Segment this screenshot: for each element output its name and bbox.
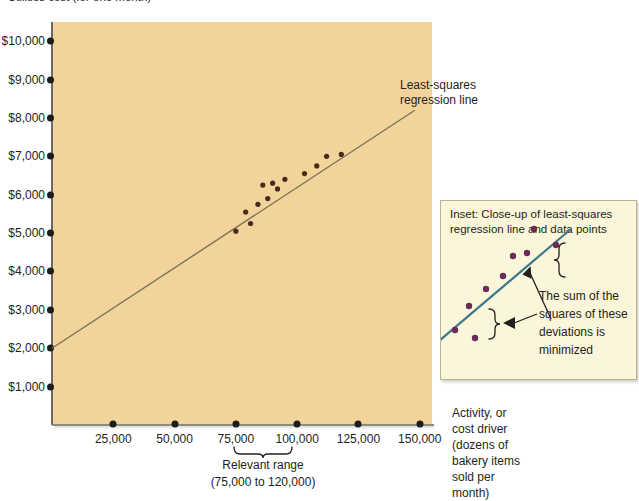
- inset-data-point: [483, 286, 489, 292]
- y-axis-tick-dot: [47, 153, 54, 160]
- inset-data-point: [500, 273, 506, 279]
- inset-note-line-2: deviations is: [539, 323, 634, 341]
- x-axis-tick-dot: [416, 421, 423, 428]
- inset-data-point: [466, 303, 472, 309]
- y-axis-tick-dot: [47, 230, 54, 237]
- y-axis-tick-label: $4,000: [8, 264, 45, 278]
- inset-data-point: [553, 242, 559, 248]
- inset-data-point: [452, 327, 458, 333]
- x-axis-tick-dot: [232, 421, 239, 428]
- inset-brace-lower: [489, 309, 500, 339]
- y-axis-tick-label: $5,000: [8, 226, 45, 240]
- y-axis-tick-label: $8,000: [8, 111, 45, 125]
- relevant-range-line1: Relevant range: [178, 457, 348, 474]
- x-axis-title-line-4: sold per: [452, 469, 547, 485]
- x-axis-tick-dot: [355, 421, 362, 428]
- inset-note-line-0: The sum of the: [539, 287, 634, 305]
- plot-area: [52, 22, 432, 425]
- x-axis-tick-dot: [110, 421, 117, 428]
- y-axis-tick-label: $9,000: [8, 73, 45, 87]
- y-axis-tick-dot: [47, 76, 54, 83]
- y-axis-tick-dot: [47, 268, 54, 275]
- x-axis-tick-dot: [171, 421, 178, 428]
- x-axis-tick-label: 150,000: [398, 432, 441, 446]
- x-axis-tick-label: 75,000: [218, 432, 255, 446]
- inset-note-line-1: squares of these: [539, 305, 634, 323]
- x-axis-tick-label: 100,000: [275, 432, 318, 446]
- x-axis-tick-label: 125,000: [337, 432, 380, 446]
- regression-line-label-line2: regression line: [400, 93, 478, 108]
- y-axis-tick-label: $10,000: [2, 34, 45, 48]
- y-axis-tick-dot: [47, 191, 54, 198]
- regression-line-label-line1: Least-squares: [400, 78, 478, 93]
- inset-note: The sum of the squares of these deviatio…: [539, 287, 634, 359]
- x-axis-title: Activity, or cost driver (dozens of bake…: [452, 405, 547, 501]
- inset-data-point: [524, 250, 530, 256]
- y-axis-tick-dot: [47, 306, 54, 313]
- x-axis-title-line-3: bakery items: [452, 453, 547, 469]
- y-axis-tick-label: $3,000: [8, 303, 45, 317]
- inset-data-point: [510, 253, 516, 259]
- x-axis-title-line-2: (dozens of: [452, 437, 547, 453]
- y-axis-tick-dot: [47, 38, 54, 45]
- x-axis-tick-label: 25,000: [95, 432, 132, 446]
- y-axis-tick-label: $6,000: [8, 188, 45, 202]
- inset-arrow-left: [503, 314, 537, 329]
- y-axis-tick-label: $2,000: [8, 341, 45, 355]
- inset-note-line-3: minimized: [539, 341, 634, 359]
- x-axis-title-line-1: cost driver: [452, 421, 547, 437]
- relevant-range-line2: (75,000 to 120,000): [178, 474, 348, 491]
- chart-top-caption: Utilities cost (for one month): [8, 0, 151, 3]
- x-axis-tick-label: 50,000: [156, 432, 193, 446]
- inset-data-point: [472, 335, 478, 341]
- y-axis-tick-label: $7,000: [8, 149, 45, 163]
- regression-line-label: Least-squares regression line: [400, 78, 478, 108]
- y-axis-tick-label: $1,000: [8, 380, 45, 394]
- y-axis-tick-dot: [47, 345, 54, 352]
- x-axis-title-line-0: Activity, or: [452, 405, 547, 421]
- y-axis-tick-dot: [47, 383, 54, 390]
- inset-data-point: [531, 226, 537, 232]
- x-axis-title-line-5: month): [452, 485, 547, 501]
- relevant-range-caption: Relevant range (75,000 to 120,000): [178, 457, 348, 491]
- x-axis-tick-dot: [294, 421, 301, 428]
- inset-panel: Inset: Close-up of least-squares regress…: [440, 200, 637, 380]
- y-axis-tick-dot: [47, 114, 54, 121]
